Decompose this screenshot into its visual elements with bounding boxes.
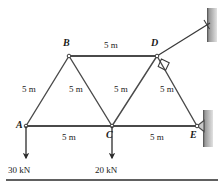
support-D-inclined-link xyxy=(157,20,210,70)
dimension-label-cd: 5 m xyxy=(114,85,128,94)
truss-figure-page: A B C D E 5 m 5 m 5 m 5 m 5 m 5 m 5 m 30… xyxy=(0,0,224,188)
node-label-B: B xyxy=(63,38,70,48)
node-label-D: D xyxy=(151,38,158,48)
dimension-label-bc: 5 m xyxy=(69,85,83,94)
dimension-label-ce: 5 m xyxy=(150,133,164,142)
wall-upper-right xyxy=(207,8,217,42)
dimension-label-de: 5 m xyxy=(160,85,174,94)
node-label-C: C xyxy=(106,130,113,140)
node-B xyxy=(67,54,71,58)
node-label-A: A xyxy=(16,120,23,130)
truss-diagram-canvas xyxy=(0,0,224,188)
node-label-E: E xyxy=(190,130,197,140)
node-D xyxy=(155,54,159,58)
node-E xyxy=(195,124,199,128)
load-label-A: 30 kN xyxy=(8,166,30,175)
dimension-label-ab: 5 m xyxy=(22,85,36,94)
dimension-label-ac: 5 m xyxy=(62,133,76,142)
dimension-label-bd: 5 m xyxy=(104,41,118,50)
load-label-C: 20 kN xyxy=(95,166,117,175)
